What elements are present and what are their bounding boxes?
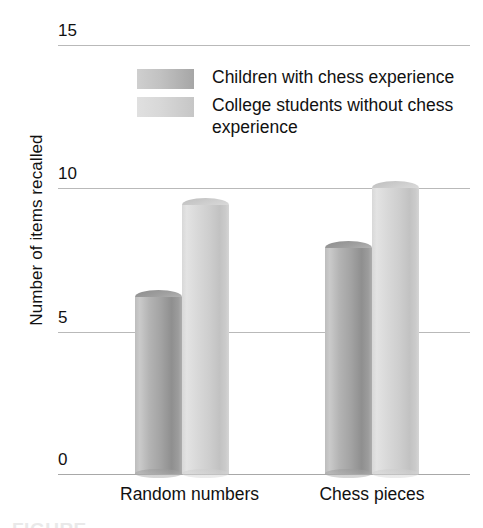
y-tick-label-10: 10 xyxy=(58,165,77,182)
y-tick-label-0: 0 xyxy=(58,451,67,468)
bar-body xyxy=(325,248,372,474)
legend-item-college[interactable]: College students without chess experienc… xyxy=(137,94,467,139)
bar-body xyxy=(182,205,229,474)
bar-chess-pieces-college[interactable] xyxy=(372,181,419,474)
bar-random-numbers-college[interactable] xyxy=(182,198,229,474)
bar-foot xyxy=(325,469,372,478)
chart-figure: Number of items recalled 15 10 5 0 xyxy=(0,0,483,528)
category-label-chess-pieces: Chess pieces xyxy=(312,484,432,505)
gridline-15 xyxy=(58,45,470,46)
bar-foot xyxy=(372,469,419,478)
legend-swatch-icon-children xyxy=(137,69,194,89)
figure-caption-clipped: FIGURE xyxy=(12,519,87,528)
bar-foot xyxy=(182,469,229,478)
y-tick-label-5: 5 xyxy=(58,309,67,326)
y-tick-label-15: 15 xyxy=(58,22,77,39)
legend-label-children: Children with chess experience xyxy=(212,66,454,88)
y-axis-title: Number of items recalled xyxy=(27,105,47,355)
chart-legend: Children with chess experience College s… xyxy=(137,66,467,144)
legend-swatch-icon-college xyxy=(137,97,194,117)
bar-random-numbers-children[interactable] xyxy=(135,290,182,474)
legend-item-children[interactable]: Children with chess experience xyxy=(137,66,467,89)
bar-chess-pieces-children[interactable] xyxy=(325,241,372,474)
legend-label-college: College students without chess experienc… xyxy=(212,94,467,139)
bar-body xyxy=(135,297,182,474)
bar-body xyxy=(372,188,419,474)
bar-foot xyxy=(135,469,182,478)
category-label-random-numbers: Random numbers xyxy=(120,484,245,505)
